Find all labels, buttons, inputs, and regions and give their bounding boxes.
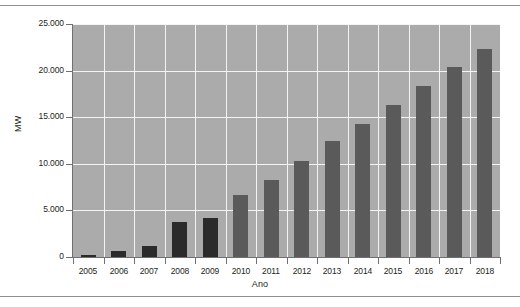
y-tick-mark-0 (66, 257, 72, 258)
y-axis-title: MW (14, 116, 23, 132)
x-tick-mark-7 (287, 258, 288, 264)
y-tick-mark-20000 (66, 71, 72, 72)
bar-2016[interactable] (416, 86, 431, 257)
bar-2009[interactable] (203, 218, 218, 257)
x-tick-mark-2 (134, 258, 135, 264)
x-tick-mark-3 (165, 258, 166, 264)
x-tick-mark-10 (378, 258, 379, 264)
y-tick-label-5000: 5.000 (6, 205, 64, 214)
gridline-x-11 (409, 24, 410, 257)
bar-2018[interactable] (477, 49, 492, 257)
y-tick-label-0: 0 (6, 252, 64, 261)
x-tick-mark-0 (73, 258, 74, 264)
y-tick-mark-15000 (66, 117, 72, 118)
x-tick-mark-9 (348, 258, 349, 264)
x-tick-mark-6 (256, 258, 257, 264)
bar-2012[interactable] (294, 161, 309, 257)
x-tick-label-2018: 2018 (465, 266, 505, 276)
bar-2007[interactable] (142, 246, 157, 257)
gridline-x-1 (104, 24, 105, 257)
gridline-x-4 (195, 24, 196, 257)
x-tick-mark-8 (317, 258, 318, 264)
bar-2011[interactable] (264, 180, 279, 257)
y-tick-label-20000: 20.000 (6, 66, 64, 75)
bar-2010[interactable] (233, 195, 248, 257)
gridline-x-13 (470, 24, 471, 257)
y-tick-label-25000: 25.000 (6, 19, 64, 28)
bar-2017[interactable] (447, 67, 462, 257)
x-tick-mark-11 (409, 258, 410, 264)
bar-2008[interactable] (172, 222, 187, 257)
gridline-x-5 (226, 24, 227, 257)
y-tick-mark-10000 (66, 164, 72, 165)
gridline-x-6 (256, 24, 257, 257)
x-tick-mark-14 (500, 258, 501, 264)
y-axis-line (72, 24, 73, 258)
plot-area (73, 24, 500, 257)
bar-chart-figure: 05.00010.00015.00020.00025.000 200520062… (0, 0, 520, 307)
x-tick-mark-1 (104, 258, 105, 264)
x-tick-mark-4 (195, 258, 196, 264)
gridline-x-12 (439, 24, 440, 257)
gridline-x-7 (287, 24, 288, 257)
gridline-x-8 (317, 24, 318, 257)
gridline-x-9 (348, 24, 349, 257)
gridline-x-2 (134, 24, 135, 257)
y-tick-mark-5000 (66, 210, 72, 211)
y-axis-ticks: 05.00010.00015.00020.00025.000 (0, 0, 64, 307)
y-tick-label-10000: 10.000 (6, 159, 64, 168)
x-tick-mark-12 (439, 258, 440, 264)
x-tick-mark-5 (226, 258, 227, 264)
bar-2014[interactable] (355, 124, 370, 257)
bar-2013[interactable] (325, 141, 340, 257)
bar-2015[interactable] (386, 105, 401, 257)
x-tick-mark-13 (470, 258, 471, 264)
y-tick-mark-25000 (66, 24, 72, 25)
gridline-x-3 (165, 24, 166, 257)
x-axis-title: Ano (0, 279, 520, 289)
gridline-x-10 (378, 24, 379, 257)
